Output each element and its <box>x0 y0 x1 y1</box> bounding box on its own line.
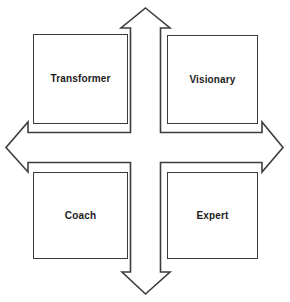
quadrant-label-visionary: Visionary <box>189 75 235 85</box>
quadrant-label-transformer: Transformer <box>50 74 110 84</box>
quadrant-box-expert[interactable]: Expert <box>167 172 258 259</box>
quadrant-label-coach: Coach <box>65 211 96 221</box>
quadrant-label-expert: Expert <box>196 211 228 221</box>
quadrant-box-visionary[interactable]: Visionary <box>167 35 258 124</box>
quadrant-box-transformer[interactable]: Transformer <box>33 34 128 124</box>
quadrant-box-coach[interactable]: Coach <box>33 172 128 259</box>
quadrant-diagram: Transformer Visionary Coach Expert <box>0 0 290 302</box>
